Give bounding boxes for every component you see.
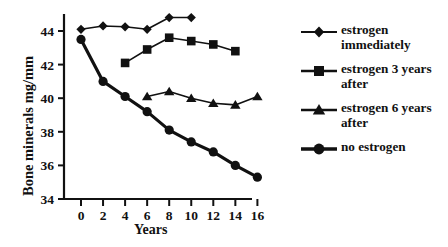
data-point-marker xyxy=(252,92,262,101)
y-tick-label: 40 xyxy=(41,91,55,106)
triangle-marker-icon xyxy=(300,101,338,119)
data-point-marker xyxy=(165,13,174,22)
x-tick-label: 16 xyxy=(251,208,265,223)
square-marker-icon xyxy=(300,62,338,80)
data-point-marker xyxy=(187,13,196,22)
x-tick-label: 4 xyxy=(122,208,129,223)
legend-item-no-estrogen: no estrogen xyxy=(300,139,448,158)
legend-item-estrogen-3-years-after: estrogen 3 years after xyxy=(300,61,448,91)
x-tick-label: 8 xyxy=(166,208,173,223)
data-point-marker xyxy=(76,25,85,34)
legend-label: estrogen immediately xyxy=(341,22,411,52)
data-point-marker xyxy=(231,47,240,56)
data-point-marker xyxy=(98,21,107,30)
series-estrogen-6-years-after xyxy=(142,87,263,109)
data-point-marker xyxy=(187,137,196,146)
diamond-marker-icon xyxy=(300,23,338,41)
y-tick-label: 34 xyxy=(41,192,55,207)
x-tick-label: 10 xyxy=(185,208,199,223)
data-point-marker xyxy=(187,37,196,46)
data-point-marker xyxy=(121,22,130,31)
legend-label: estrogen 3 years after xyxy=(341,61,432,91)
y-tick-label: 44 xyxy=(41,24,55,39)
x-tick-label: 6 xyxy=(144,208,151,223)
chart-legend: estrogen immediately estrogen 3 years af… xyxy=(300,22,448,167)
bone-minerals-line-chart: Bone minerals mg/mm 343638404244 0246810… xyxy=(0,0,448,247)
x-axis-title: Years xyxy=(134,222,167,238)
data-point-marker xyxy=(253,173,262,182)
x-tick-label: 0 xyxy=(78,208,85,223)
data-point-marker xyxy=(121,59,130,68)
legend-label: no estrogen xyxy=(341,139,406,154)
legend-item-estrogen-6-years-after: estrogen 6 years after xyxy=(300,100,448,130)
legend-label: estrogen 6 years after xyxy=(341,100,432,130)
data-point-marker xyxy=(209,147,218,156)
data-point-marker xyxy=(165,126,174,135)
data-point-marker xyxy=(209,40,218,49)
data-point-marker xyxy=(76,35,85,44)
legend-item-estrogen-immediately: estrogen immediately xyxy=(300,22,448,52)
series-estrogen-3-years-after xyxy=(121,33,240,67)
data-point-marker xyxy=(143,45,152,54)
data-point-marker xyxy=(143,25,152,34)
data-point-marker xyxy=(231,161,240,170)
x-tick-label: 14 xyxy=(229,208,243,223)
y-tick-label: 36 xyxy=(41,158,55,173)
x-tick-label: 12 xyxy=(207,208,221,223)
series-estrogen-immediately xyxy=(76,13,195,34)
data-point-marker xyxy=(143,107,152,116)
circle-marker-icon xyxy=(300,140,338,158)
axis-lines xyxy=(58,14,252,199)
y-tick-label: 42 xyxy=(41,58,55,73)
data-point-marker xyxy=(121,92,130,101)
y-axis-ticks: 343638404244 xyxy=(41,24,65,207)
y-tick-label: 38 xyxy=(41,125,55,140)
data-point-marker xyxy=(98,77,107,86)
data-series-layer xyxy=(76,13,262,182)
data-point-marker xyxy=(165,33,174,42)
x-tick-label: 2 xyxy=(100,208,107,223)
data-point-marker xyxy=(164,87,174,96)
x-axis-ticks: 0246810121416 xyxy=(78,199,265,223)
